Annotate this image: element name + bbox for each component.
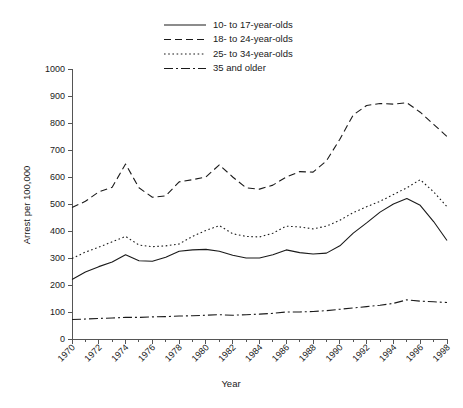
series-line-1 — [72, 103, 447, 208]
legend-label-2: 25- to 34-year-olds — [213, 48, 293, 59]
y-tick-label: 600 — [50, 172, 65, 182]
chart-container: 10- to 17-year-olds18- to 24-year-olds25… — [0, 0, 463, 408]
series-lines — [72, 103, 447, 320]
legend-label-0: 10- to 17-year-olds — [213, 19, 293, 30]
x-tick-label: 1974 — [109, 342, 130, 363]
x-tick-label: 1992 — [350, 342, 371, 363]
series-line-3 — [72, 300, 447, 320]
y-tick-label: 800 — [50, 118, 65, 128]
y-tick-label: 500 — [50, 199, 65, 209]
x-tick-label: 1990 — [324, 342, 345, 363]
y-axis: 01002003004005006007008009001000 — [45, 64, 72, 344]
x-tick-label: 1998 — [431, 342, 452, 363]
y-tick-label: 200 — [50, 280, 65, 290]
y-tick-label: 1000 — [45, 64, 65, 74]
y-tick-label: 0 — [60, 334, 65, 344]
y-tick-label: 900 — [50, 91, 65, 101]
series-line-2 — [72, 180, 447, 259]
y-tick-label: 100 — [50, 307, 65, 317]
x-tick-label: 1984 — [243, 342, 264, 363]
x-axis: 1970197219741976197819801982198419861988… — [56, 339, 452, 364]
x-axis-title: Year — [221, 378, 240, 389]
series-line-0 — [72, 199, 447, 280]
x-tick-label: 1994 — [377, 342, 398, 363]
x-tick-label: 1972 — [82, 342, 103, 363]
y-tick-label: 300 — [50, 253, 65, 263]
chart-legend: 10- to 17-year-olds18- to 24-year-olds25… — [164, 19, 293, 74]
y-axis-title: Arrest per 100,000 — [21, 166, 32, 245]
x-tick-label: 1986 — [270, 342, 291, 363]
x-tick-label: 1996 — [404, 342, 425, 363]
x-tick-label: 1978 — [163, 342, 184, 363]
x-tick-label: 1976 — [136, 342, 157, 363]
y-tick-label: 700 — [50, 145, 65, 155]
x-tick-label: 1988 — [297, 342, 318, 363]
x-tick-label: 1980 — [190, 342, 211, 363]
y-tick-label: 400 — [50, 226, 65, 236]
arrest-rate-line-chart: 10- to 17-year-olds18- to 24-year-olds25… — [0, 0, 463, 408]
x-tick-label: 1982 — [216, 342, 237, 363]
legend-label-3: 35 and older — [213, 62, 266, 73]
legend-label-1: 18- to 24-year-olds — [213, 33, 293, 44]
x-tick-label: 1970 — [56, 342, 77, 363]
